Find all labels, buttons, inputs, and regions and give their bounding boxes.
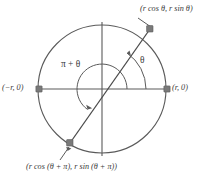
marker-left-point bbox=[36, 86, 42, 92]
label-terminal-point: (r cos θ, r sin θ) bbox=[140, 5, 193, 13]
diameter-through-theta bbox=[70, 29, 150, 143]
label-antipodal-point: (r cos (θ + π), r sin (θ + π)) bbox=[26, 163, 117, 171]
geometry-figure: (r cos θ, r sin θ) (r cos (θ + π), r sin… bbox=[0, 0, 222, 180]
label-left-point: (−r, 0) bbox=[2, 84, 23, 92]
figure-canvas bbox=[0, 0, 222, 180]
marker-terminal-point bbox=[147, 26, 153, 32]
theta-arc-arrowhead bbox=[127, 51, 131, 57]
marker-right-point bbox=[164, 86, 170, 92]
label-right-point: (r, 0) bbox=[172, 84, 188, 92]
label-angle-theta: θ bbox=[140, 56, 145, 65]
marker-antipodal-point bbox=[67, 140, 73, 146]
label-angle-pi-plus-theta: π + θ bbox=[61, 60, 80, 69]
